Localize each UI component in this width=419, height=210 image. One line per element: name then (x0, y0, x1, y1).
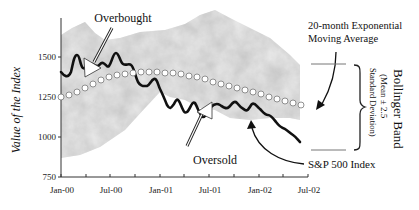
brace-icon (354, 65, 365, 150)
sp500-label: S&P 500 Index (308, 158, 376, 170)
y-axis-title: Value of the Index (9, 66, 23, 153)
ema-label-line1: 20-month Exponential (308, 20, 402, 31)
overbought-label: Overbought (94, 11, 152, 25)
y-tick-1500: 1500 (38, 52, 57, 62)
bollinger-title: Bollinger Band (391, 69, 406, 149)
bollinger-band-area (61, 10, 300, 158)
x-tick-jul-02: Jul-02 (298, 185, 321, 195)
bollinger-annotation: Bollinger Band (Mean ± 2.5 Standard Devi… (311, 64, 406, 150)
y-tick-1250: 1250 (38, 92, 57, 102)
bollinger-sub2: Standard Deviation) (368, 68, 378, 137)
x-tick-jan-00: Jan-00 (50, 185, 74, 195)
x-tick-jul-00: Jul-00 (100, 185, 123, 195)
x-tick-jan-02: Jan-02 (248, 185, 272, 195)
x-tick-jul-01: Jul-01 (199, 185, 222, 195)
sp500-arrowhead-icon (247, 120, 256, 129)
y-tick-750: 750 (43, 172, 57, 182)
oversold-label: Oversold (193, 153, 237, 167)
bollinger-sub1: (Mean ± 2.5 (379, 74, 389, 119)
y-axis: 1500 1250 1000 750 Value of the Index (9, 18, 61, 182)
y-tick-1000: 1000 (38, 132, 57, 142)
bollinger-band-chart: 1500 1250 1000 750 Value of the Index Ja… (0, 0, 419, 210)
sp500-annotation: S&P 500 Index (247, 120, 376, 170)
x-axis: Jan-00 Jul-00 Jan-01 Jul-01 Jan-02 Jul-0… (50, 174, 320, 195)
ema-label-line2: Moving Average (308, 33, 378, 44)
x-tick-jan-01: Jan-01 (149, 185, 173, 195)
